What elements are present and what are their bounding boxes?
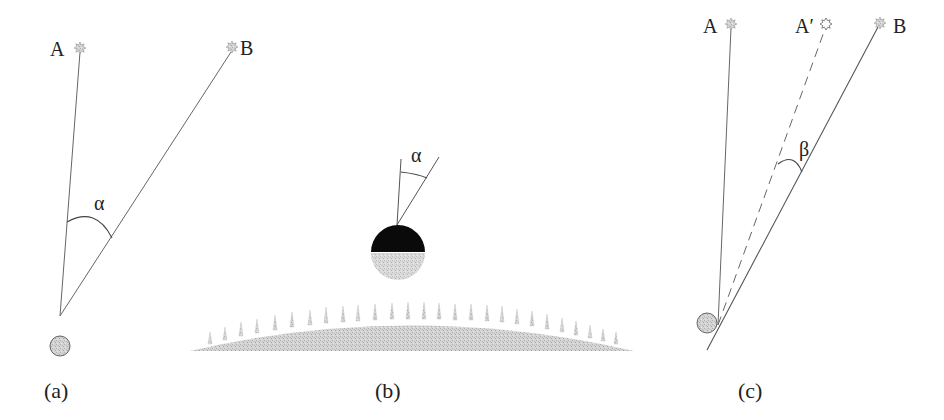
star-open-icon bbox=[820, 18, 832, 30]
star-icon bbox=[874, 17, 886, 29]
observer-body-icon bbox=[697, 313, 717, 333]
star-label-a: A bbox=[50, 38, 65, 60]
angle-arc-alpha bbox=[401, 172, 427, 178]
panel-b: α bbox=[190, 144, 634, 403]
sightline-a-to-star-a bbox=[60, 52, 80, 316]
star-icon bbox=[226, 41, 238, 53]
star-icon bbox=[725, 18, 737, 30]
moon-icon bbox=[371, 225, 425, 280]
caption-c: (c) bbox=[738, 378, 762, 403]
horizon-ground bbox=[190, 302, 634, 351]
sightline-c-to-star-a bbox=[718, 28, 731, 325]
star-label-b: B bbox=[240, 37, 253, 59]
angle-arc-beta bbox=[778, 160, 802, 173]
sightline-angled bbox=[397, 157, 439, 225]
panel-c: β A A′ B (c) bbox=[697, 15, 906, 403]
sightline-a-to-star-b bbox=[60, 52, 231, 316]
angle-label-alpha: α bbox=[411, 144, 422, 166]
sightline-c-to-star-b bbox=[707, 27, 878, 350]
sightline-c-to-star-a-prime bbox=[718, 29, 825, 325]
observer-body-icon bbox=[50, 336, 70, 356]
astronomy-diagram: α A B (a) α bbox=[0, 0, 944, 420]
star-label-a: A bbox=[703, 15, 718, 37]
angle-label-beta: β bbox=[799, 138, 809, 161]
star-icon bbox=[74, 42, 86, 54]
star-label-a-prime: A′ bbox=[795, 15, 814, 37]
sightline-vertical bbox=[397, 159, 401, 225]
caption-a: (a) bbox=[44, 378, 68, 403]
caption-b: (b) bbox=[375, 378, 401, 403]
star-label-b: B bbox=[893, 15, 906, 37]
angle-arc-alpha bbox=[67, 217, 112, 238]
angle-label-alpha: α bbox=[94, 192, 105, 214]
